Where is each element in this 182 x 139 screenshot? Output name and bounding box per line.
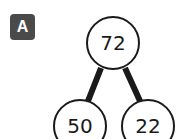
- node-root: 72: [87, 17, 139, 69]
- node-right: 22: [122, 100, 174, 139]
- node-right-value: 22: [135, 114, 160, 138]
- node-left: 50: [54, 100, 106, 139]
- binary-tree-diagram: 72 50 22: [0, 0, 182, 139]
- edge-root-right: [125, 68, 140, 101]
- edge-root-left: [88, 68, 101, 101]
- node-root-value: 72: [100, 31, 125, 55]
- node-left-value: 50: [67, 114, 92, 138]
